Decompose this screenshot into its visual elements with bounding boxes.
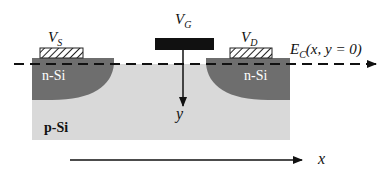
drain-voltage-label: VD: [241, 29, 258, 48]
substrate-label: p-Si: [44, 120, 68, 135]
source-region-label: n-Si: [42, 68, 65, 83]
source-voltage-label: VS: [48, 29, 62, 48]
x-axis-label: x: [317, 150, 325, 167]
band-edge-label: EC(x, y = 0): [289, 41, 362, 60]
gate-voltage-label: VG: [175, 11, 191, 30]
source-contact: [40, 48, 83, 58]
drain-contact: [230, 48, 272, 58]
drain-region-label: n-Si: [244, 68, 267, 83]
mosfet-diagram: VS VG VD EC(x, y = 0) n-Si n-Si p-Si y x: [0, 0, 387, 177]
y-axis-label: y: [174, 105, 184, 123]
gate-electrode: [155, 38, 214, 50]
